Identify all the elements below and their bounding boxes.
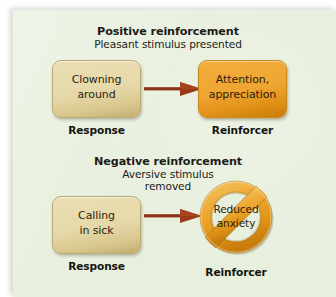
positive-reinforcer-box: Attention, appreciation — [198, 60, 287, 118]
negative-subtitle-line-2: removed — [0, 180, 336, 192]
negative-title: Negative reinforcement — [0, 155, 336, 168]
negative-response-box: Calling in sick — [52, 196, 141, 254]
positive-title: Positive reinforcement — [0, 25, 336, 38]
positive-subtitle-line-1: Pleasant stimulus presented — [0, 38, 336, 50]
positive-arrow-right-icon — [144, 80, 204, 98]
negative-subtitle-line-1: Aversive stimulus — [0, 168, 336, 180]
negative-heading-group: Negative reinforcement Aversive stimulus… — [0, 155, 336, 193]
negative-reinforcer-ring: Reduced anxiety — [198, 179, 274, 255]
positive-response-label: Response — [52, 124, 141, 136]
reinforcement-diagram: Positive reinforcement Pleasant stimulus… — [0, 0, 336, 297]
negative-response-box-text: Calling in sick — [78, 209, 115, 240]
negative-response-label: Response — [52, 260, 141, 272]
positive-heading-group: Positive reinforcement Pleasant stimulus… — [0, 25, 336, 50]
positive-reinforcer-label: Reinforcer — [198, 124, 287, 136]
positive-response-box-text: Clowning around — [72, 73, 122, 104]
positive-reinforcer-box-text: Attention, appreciation — [209, 73, 276, 104]
negative-reinforcer-label: Reinforcer — [198, 266, 274, 278]
negative-arrow-right-icon — [144, 207, 204, 225]
negative-reinforcer-box-text: Reduced anxiety — [198, 179, 274, 255]
positive-response-box: Clowning around — [52, 60, 141, 118]
